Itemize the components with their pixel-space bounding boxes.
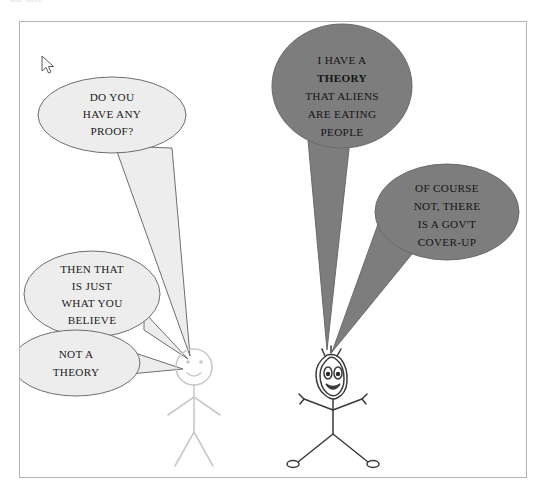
left-leg: [175, 432, 194, 466]
bubble-line-1: I HAVE A: [318, 54, 367, 66]
left-hand: [299, 394, 304, 404]
comic-panel-frame: DO YOU HAVE ANY PROOF? THEN THAT IS JUST…: [19, 21, 527, 478]
hair-tuft-left: [322, 349, 325, 356]
page-root: not sure DO YOU HAVE ANY PROOF?: [0, 0, 544, 493]
bubble-line-1: THEN THAT: [60, 263, 124, 275]
bubble-line-3: PROOF?: [91, 125, 134, 137]
left-foot: [287, 461, 299, 468]
head: [176, 349, 212, 385]
bubble-line-1: NOT A: [59, 348, 94, 360]
clipped-caption-text: not sure: [10, 0, 43, 4]
left-arm: [304, 399, 333, 410]
right-foot: [367, 461, 379, 468]
left-arm: [168, 397, 194, 415]
bubble-line-4: COVER-UP: [418, 236, 476, 248]
bubble-line-2: IS JUST: [72, 280, 112, 292]
excited-stick-figure[interactable]: [287, 346, 379, 468]
bubble-shape: [20, 330, 140, 396]
calm-stick-figure[interactable]: [168, 349, 220, 466]
bubble-line-1: OF COURSE: [415, 182, 479, 194]
bubble-line-4: ARE EATING: [308, 108, 377, 120]
mouth-smile: [187, 373, 201, 376]
bubble-line-3: WHAT YOU: [61, 297, 122, 309]
bubble-line-1: DO YOU: [90, 91, 135, 103]
right-pupil: [336, 372, 340, 376]
left-pupil: [326, 372, 330, 376]
hair-tuft-right: [337, 349, 341, 356]
bubble-line-4: BELIEVE: [68, 314, 117, 326]
bubble-do-you-have-any-proof[interactable]: DO YOU HAVE ANY PROOF?: [38, 77, 186, 153]
bubble-line-2: HAVE ANY: [83, 108, 141, 120]
bubble-line-2-bold: THEORY: [317, 72, 367, 84]
left-eye: [186, 360, 190, 364]
bubble-line-3: IS A GOV'T: [418, 218, 476, 230]
bubble-not-a-theory[interactable]: NOT A THEORY: [20, 330, 140, 396]
left-leg: [298, 434, 333, 462]
right-arm: [333, 399, 362, 410]
right-eye: [199, 360, 203, 364]
right-leg: [333, 434, 368, 462]
right-hand: [362, 394, 367, 404]
comic-illustration: DO YOU HAVE ANY PROOF? THEN THAT IS JUST…: [20, 22, 526, 477]
bubble-then-that-is-just-what-you-believe[interactable]: THEN THAT IS JUST WHAT YOU BELIEVE: [24, 251, 160, 337]
right-arm: [194, 397, 220, 415]
bubble-i-have-a-theory[interactable]: I HAVE A THEORY THAT ALIENS ARE EATING P…: [272, 24, 412, 148]
bubble-line-2: THEORY: [53, 366, 100, 378]
bubble-line-2: NOT, THERE: [414, 200, 481, 212]
bubble-line-5: PEOPLE: [321, 126, 364, 138]
bubble-line-3: THAT ALIENS: [305, 90, 379, 102]
bubble-of-course-not[interactable]: OF COURSE NOT, THERE IS A GOV'T COVER-UP: [375, 164, 519, 260]
right-leg: [194, 432, 213, 466]
